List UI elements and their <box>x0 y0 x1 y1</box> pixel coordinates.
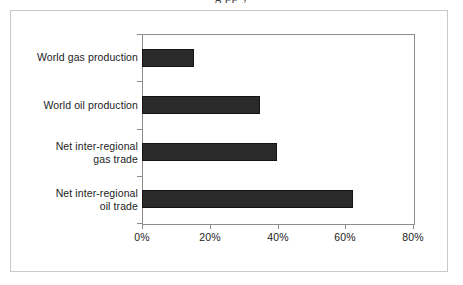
bar-net-inter-regional-oil-trade[interactable] <box>142 190 353 208</box>
bar-chart: World gas production World oil productio… <box>11 11 449 273</box>
x-axis-tick <box>345 224 346 229</box>
x-axis-tick-label: 0% <box>117 231 167 243</box>
x-axis-tick <box>278 224 279 229</box>
bar-world-oil-production[interactable] <box>142 96 260 114</box>
x-axis-tick-label: 40% <box>253 231 303 243</box>
x-axis-tick-label: 60% <box>320 231 370 243</box>
x-axis-tick <box>413 224 414 229</box>
bar-net-inter-regional-gas-trade[interactable] <box>142 143 277 161</box>
bar-world-gas-production[interactable] <box>142 49 194 67</box>
y-axis-tick <box>137 129 142 130</box>
cropped-title-text: g pp y <box>0 0 463 3</box>
y-axis-tick <box>137 34 142 35</box>
x-axis-tick <box>210 224 211 229</box>
x-axis-tick-label: 20% <box>185 231 235 243</box>
y-axis-label-net-inter-regional-oil-trade: Net inter-regionaloil trade <box>14 187 138 212</box>
y-axis-tick <box>137 176 142 177</box>
y-axis-tick <box>137 81 142 82</box>
y-axis-label-world-gas-production: World gas production <box>14 51 138 64</box>
y-axis-label-world-oil-production: World oil production <box>14 99 138 112</box>
x-axis-tick-label: 80% <box>388 231 438 243</box>
x-axis-tick <box>142 224 143 229</box>
y-axis-label-net-inter-regional-gas-trade: Net inter-regionalgas trade <box>14 140 138 165</box>
figure-frame: World gas production World oil productio… <box>10 10 448 272</box>
